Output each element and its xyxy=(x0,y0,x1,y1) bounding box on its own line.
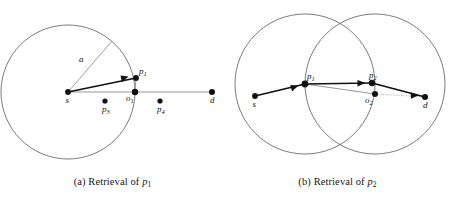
panel-b-diagram: s p1 p2 o2 d xyxy=(225,0,450,160)
node-label-p1: p1 xyxy=(138,66,147,77)
node-p1 xyxy=(302,81,309,88)
node-p4 xyxy=(157,98,162,103)
arrowhead-s-p1 xyxy=(121,75,129,82)
node-label-o1: o1 xyxy=(126,93,134,104)
node-label-d: d xyxy=(423,100,428,110)
node-label-s: s xyxy=(253,99,257,109)
arrowhead-s-p1 xyxy=(290,85,298,92)
caption-panel-b: (b) Retrieval of p2 xyxy=(225,176,450,189)
node-label-p4: p4 xyxy=(156,104,166,115)
node-o2 xyxy=(372,91,378,97)
caption-a-prefix: (a) Retrieval of xyxy=(74,176,142,187)
retrieval-figure: a s p1 o1 p3 p4 d xyxy=(0,0,450,199)
node-o1 xyxy=(132,89,138,95)
node-label-s: s xyxy=(66,95,70,105)
node-label-p1: p1 xyxy=(306,71,315,82)
arrowhead-p1-p2 xyxy=(358,80,366,86)
node-label-p3: p3 xyxy=(101,104,111,115)
node-label-d: d xyxy=(210,95,215,105)
arrowhead-p2-d xyxy=(411,92,419,99)
node-label-p2: p2 xyxy=(368,70,378,81)
caption-panel-a: (a) Retrieval of p1 xyxy=(0,176,225,189)
node-label-o2: o2 xyxy=(365,95,374,106)
caption-a-subscript: 1 xyxy=(147,180,151,189)
radius-label-a: a xyxy=(79,54,84,64)
caption-b-subscript: 2 xyxy=(373,180,377,189)
node-p3 xyxy=(102,98,107,103)
panel-a-diagram: a s p1 o1 p3 p4 d xyxy=(0,0,225,160)
caption-b-prefix: (b) Retrieval of xyxy=(298,176,367,187)
edge-p1-o2 xyxy=(305,84,375,94)
